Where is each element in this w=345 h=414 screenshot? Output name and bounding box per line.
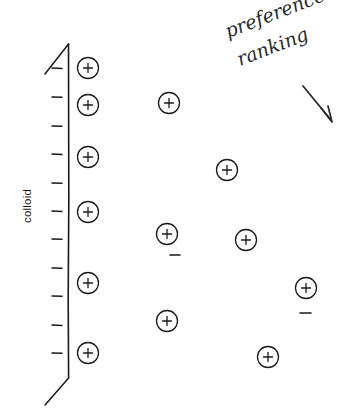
down-right-arrow-icon — [303, 86, 332, 122]
axis-group: colloid — [21, 44, 69, 405]
circled-plus-marker — [157, 224, 178, 245]
axis-spine — [68, 44, 69, 378]
axis-top-serif — [45, 44, 69, 74]
circled-plus-marker — [78, 273, 99, 294]
circled-plus-marker — [159, 93, 180, 114]
marker-column-1 — [78, 58, 99, 364]
circled-plus-marker — [157, 311, 178, 332]
circled-plus-marker — [217, 160, 238, 181]
circled-plus-marker — [258, 347, 279, 368]
circled-plus-marker — [296, 278, 317, 299]
circled-plus-marker — [78, 147, 99, 168]
handwritten-annotation: preference ranking — [222, 0, 332, 122]
colloid-preference-ranking-figure: colloid — [0, 0, 345, 414]
circled-plus-marker — [78, 343, 99, 364]
axis-ticks — [52, 68, 62, 353]
axis-label-colloid: colloid — [21, 189, 33, 223]
figure-canvas: colloid — [0, 0, 345, 414]
marker-column-2 — [157, 93, 181, 332]
circled-plus-marker — [78, 202, 99, 223]
marker-column-3 — [217, 160, 317, 368]
circled-plus-marker — [236, 230, 257, 251]
axis-bottom-serif — [45, 378, 69, 405]
circled-plus-marker — [78, 95, 99, 116]
circled-plus-marker — [78, 58, 99, 79]
